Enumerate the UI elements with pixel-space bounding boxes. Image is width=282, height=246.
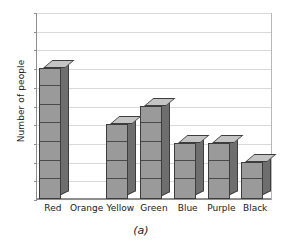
bar-segment-divider xyxy=(40,104,60,105)
bar-side-face xyxy=(128,116,136,195)
bar-segment-divider xyxy=(40,141,60,142)
bar-segment-divider xyxy=(40,160,60,161)
x-axis-tick-label: Orange xyxy=(70,203,104,213)
gridline xyxy=(37,50,271,51)
y-axis-tick-mark xyxy=(34,125,37,126)
gridline xyxy=(37,13,271,14)
y-axis-tick-mark xyxy=(34,107,37,108)
bar-segment-divider xyxy=(141,141,161,142)
x-axis-tick-label: Black xyxy=(238,203,272,213)
bar-side-face xyxy=(162,97,170,195)
x-axis-tick-label: Green xyxy=(137,203,171,213)
y-axis-tick-mark xyxy=(34,163,37,164)
bar-top-face xyxy=(144,98,176,106)
y-axis-tick-mark xyxy=(34,200,37,201)
bar-front-face xyxy=(39,68,61,199)
bar-segment-divider xyxy=(175,160,195,161)
bar-side-face xyxy=(230,135,238,195)
y-axis-tick-mark xyxy=(34,88,37,89)
bar-top-face xyxy=(178,135,210,143)
bar-segment-divider xyxy=(40,122,60,123)
y-axis-tick-mark xyxy=(34,13,37,14)
bar-front-face xyxy=(106,124,128,199)
bar-front-face xyxy=(140,106,162,200)
y-axis-tick-mark xyxy=(34,181,37,182)
bar-front-face xyxy=(174,143,196,199)
bar-side-face xyxy=(196,135,204,195)
y-axis-tick-mark xyxy=(34,69,37,70)
gridline xyxy=(37,88,271,89)
plot-area xyxy=(36,13,272,200)
bar-top-face xyxy=(110,116,142,124)
bar-segment-divider xyxy=(141,178,161,179)
x-axis-tick-label: Purple xyxy=(205,203,239,213)
x-axis-tick-label: Red xyxy=(36,203,70,213)
figure-caption: (a) xyxy=(0,224,282,237)
bar-segment-divider xyxy=(107,160,127,161)
y-axis-tick-mark xyxy=(34,32,37,33)
bar-segment-divider xyxy=(40,178,60,179)
bar-segment-divider xyxy=(107,178,127,179)
gridline xyxy=(37,32,271,33)
y-axis-tick-mark xyxy=(34,144,37,145)
bar-segment-divider xyxy=(175,178,195,179)
bar-side-face xyxy=(61,60,69,195)
bar-segment-divider xyxy=(242,178,262,179)
bar-top-face xyxy=(43,60,75,68)
bar-top-face xyxy=(245,154,277,162)
bar-segment-divider xyxy=(141,122,161,123)
y-axis-title: Number of people xyxy=(16,36,26,166)
bar-top-face xyxy=(212,135,244,143)
bar-front-face xyxy=(208,143,230,199)
bar-front-face xyxy=(241,162,263,199)
bar-segment-divider xyxy=(209,178,229,179)
x-axis-tick-label: Yellow xyxy=(103,203,137,213)
bar-segment-divider xyxy=(141,160,161,161)
bar-chart-figure: Number of people 012345678910 RedOrangeY… xyxy=(0,0,282,246)
gridline xyxy=(37,69,271,70)
bar-segment-divider xyxy=(107,141,127,142)
bar-segment-divider xyxy=(40,85,60,86)
y-axis-tick-mark xyxy=(34,50,37,51)
bar-segment-divider xyxy=(209,160,229,161)
x-axis-tick-label: Blue xyxy=(171,203,205,213)
